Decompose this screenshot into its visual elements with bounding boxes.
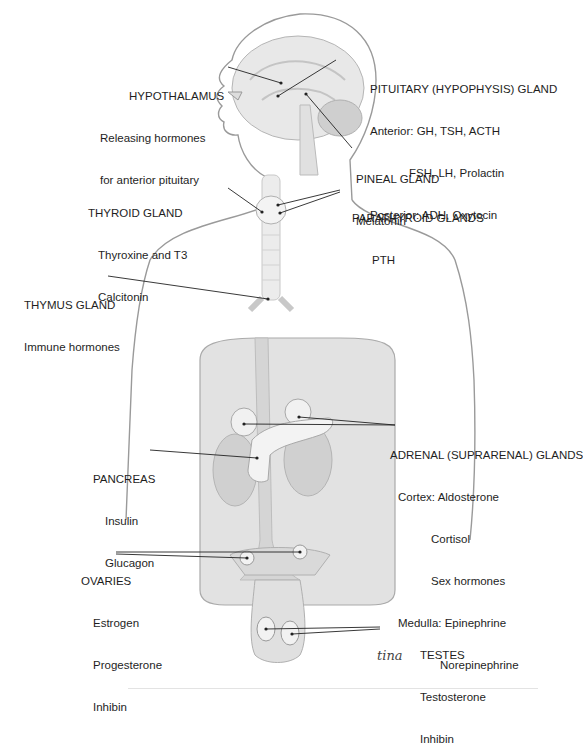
label-line: Anterior: GH, TSH, ACTH [370, 124, 557, 138]
label-line: Inhibin [81, 700, 162, 714]
artist-signature: tina [377, 648, 403, 663]
label-thymus: THYMUS GLAND Immune hormones [24, 270, 120, 368]
trachea [262, 175, 280, 300]
testis-right [281, 621, 299, 645]
label-title: PARATHYROID GLANDS [352, 211, 484, 225]
label-line: Medulla: Epinephrine [390, 616, 583, 630]
label-adrenal: ADRENAL (SUPRARENAL) GLANDS Cortex: Aldo… [390, 420, 583, 686]
label-title: TESTES [420, 648, 486, 662]
label-ovaries: OVARIES Estrogen Progesterone Inhibin [81, 546, 162, 728]
label-line: Norepinephrine [390, 658, 583, 672]
bottom-divider [128, 688, 538, 689]
label-line: PTH [352, 253, 484, 267]
adrenal-left [231, 408, 257, 436]
label-testes: TESTES Testosterone Inhibin [420, 620, 486, 747]
label-title: THYMUS GLAND [24, 298, 120, 312]
label-line: Releasing hormones [100, 131, 224, 145]
label-line: Cortisol [390, 532, 583, 546]
label-line: Estrogen [81, 616, 162, 630]
label-line: Sex hormones [390, 574, 583, 588]
label-line: Inhibin [420, 732, 486, 746]
label-title: PITUITARY (HYPOPHYSIS) GLAND [370, 82, 557, 96]
label-parathyroid: PARATHYROID GLANDS PTH [352, 183, 484, 281]
label-title: HYPOTHALAMUS [100, 89, 224, 103]
label-line: Cortex: Aldosterone [390, 490, 583, 504]
label-title: THYROID GLAND [88, 206, 187, 220]
label-title: PANCREAS [93, 472, 155, 486]
label-title: OVARIES [81, 574, 162, 588]
cerebellum [318, 100, 362, 136]
label-line: Testosterone [420, 690, 486, 704]
label-line: Progesterone [81, 658, 162, 672]
label-title: ADRENAL (SUPRARENAL) GLANDS [390, 448, 583, 462]
label-line: Insulin [93, 514, 155, 528]
thyroid-gland [256, 196, 286, 224]
label-line: Immune hormones [24, 340, 120, 354]
label-line: Thyroxine and T3 [88, 248, 187, 262]
